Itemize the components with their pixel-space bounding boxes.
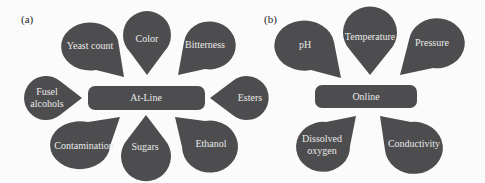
node-label: Bitterness [185, 39, 225, 50]
node-esters: Esters [210, 76, 269, 120]
node-label-line2: oxygen [307, 145, 336, 156]
node-label: pH [299, 39, 311, 50]
node-ethanol: Ethanol [175, 117, 238, 173]
panel-b: (b) pH Temperature Pressure Online Disso… [264, 7, 465, 174]
node-label: Ethanol [195, 138, 226, 149]
node-label: Fusel [36, 86, 58, 97]
node-contamination: Contamination [50, 117, 120, 169]
node-label-line2: alcohols [30, 98, 63, 109]
node-label: Esters [238, 92, 263, 103]
node-dissolved-oxygen: Dissolved oxygen [296, 116, 356, 172]
node-ph: pH [274, 21, 341, 78]
center-at-line: At-Line [88, 86, 205, 110]
panel-a: (a) Yeast count Color Bitterness Fusel a… [21, 11, 269, 181]
node-sugars: Sugars [121, 115, 171, 181]
node-fusel-alcohols: Fusel alcohols [24, 76, 82, 120]
node-label: Conductivity [388, 138, 440, 149]
panel-label-b: (b) [264, 13, 277, 26]
node-yeast-count: Yeast count [61, 23, 124, 77]
center-label: Online [352, 91, 380, 102]
node-color: Color [123, 11, 171, 75]
node-label: Sugars [131, 141, 158, 152]
node-label: Dissolved [302, 133, 342, 144]
node-temperature: Temperature [343, 7, 397, 75]
node-label: Color [136, 33, 159, 44]
node-pressure: Pressure [400, 18, 465, 75]
node-conductivity: Conductivity [380, 116, 443, 174]
node-label: Temperature [345, 31, 396, 42]
node-label: Contamination [54, 140, 113, 151]
node-bitterness: Bitterness [178, 21, 236, 75]
center-online: Online [315, 85, 417, 108]
center-label: At-Line [130, 92, 162, 103]
panel-label-a: (a) [21, 13, 34, 26]
node-label: Pressure [415, 37, 449, 48]
diagram-canvas: (a) Yeast count Color Bitterness Fusel a… [0, 0, 485, 183]
node-label: Yeast count [67, 40, 114, 51]
